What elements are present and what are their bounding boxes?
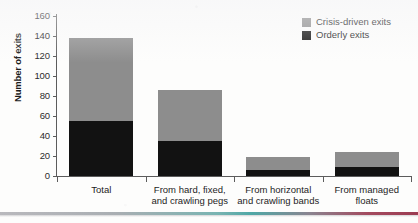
x-axis-tick-mark	[57, 177, 58, 182]
x-axis-tick-mark	[146, 177, 147, 182]
y-axis-tick-label: 120	[34, 51, 53, 61]
y-axis-tick-mark	[53, 156, 57, 157]
y-axis-tick-label: 100	[34, 71, 53, 81]
bar-segment-orderly-exits	[335, 167, 399, 176]
x-axis-category-label: From hard, fixed,and crawling pegs	[146, 184, 235, 206]
y-axis-tick-mark	[53, 96, 57, 97]
x-axis-category-label-line: From horizontal	[234, 184, 323, 195]
bar-stack	[246, 157, 310, 176]
x-axis-category-label-line: floats	[323, 195, 412, 206]
y-axis-tick-mark	[53, 16, 57, 17]
bar-segment-orderly-exits	[158, 141, 222, 176]
y-axis-tick-label: 40	[40, 131, 53, 141]
x-axis-category-label-line: and crawling pegs	[146, 195, 235, 206]
x-axis-category-label: From horizontaland crawling bands	[234, 184, 323, 206]
y-axis-tick-label: 160	[34, 11, 53, 21]
y-axis-tick-label: 20	[40, 151, 53, 161]
legend-swatch	[302, 18, 311, 27]
x-axis-tick-mark	[323, 177, 324, 182]
y-axis-tick-label: 80	[40, 91, 53, 101]
y-axis-tick-label: 60	[40, 111, 53, 121]
y-axis-tick-mark	[53, 76, 57, 77]
x-axis-category-label-line: Total	[57, 184, 146, 195]
legend-item: Orderly exits	[302, 30, 391, 40]
x-axis-category-label: Total	[57, 184, 146, 195]
legend-label: Crisis-driven exits	[316, 17, 391, 27]
bar-segment-crisis-driven-exits	[246, 157, 310, 170]
y-axis-title: Number of exits	[12, 13, 23, 123]
y-axis-tick-label: 140	[34, 31, 53, 41]
bar-segment-crisis-driven-exits	[158, 90, 222, 141]
x-axis-tick-mark	[411, 177, 412, 182]
y-axis-tick-mark	[53, 56, 57, 57]
bar-stack	[69, 38, 133, 176]
x-axis-category-label-line: From managed	[323, 184, 412, 195]
bar-stack	[335, 152, 399, 176]
y-axis-tick-mark	[53, 116, 57, 117]
y-axis-tick-label: 0	[45, 171, 53, 181]
legend-item: Crisis-driven exits	[302, 17, 391, 27]
x-axis-tick-mark	[234, 177, 235, 182]
legend-label: Orderly exits	[316, 30, 369, 40]
x-axis-category-label: From managedfloats	[323, 184, 412, 206]
x-axis-category-label-line: From hard, fixed,	[146, 184, 235, 195]
page-footer-rule-shadow	[0, 215, 418, 217]
y-axis-tick-mark	[53, 36, 57, 37]
bar-stack	[158, 90, 222, 176]
chart-figure: Number of exits 160140120100806040200 To…	[0, 0, 418, 223]
legend-swatch	[302, 31, 311, 40]
bar-segment-crisis-driven-exits	[69, 38, 133, 121]
y-axis-tick-mark	[53, 136, 57, 137]
bar-segment-orderly-exits	[69, 121, 133, 176]
x-axis-category-label-line: and crawling bands	[234, 195, 323, 206]
chart-legend: Crisis-driven exitsOrderly exits	[302, 17, 391, 43]
bar-segment-crisis-driven-exits	[335, 152, 399, 167]
